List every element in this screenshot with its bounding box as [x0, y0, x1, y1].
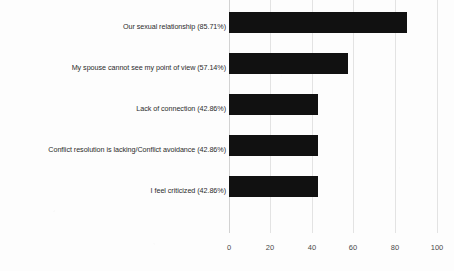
bar-chart: Our sexual relationship (85.71%) My spou…: [0, 0, 454, 271]
bar: [229, 12, 407, 33]
category-label: Conflict resolution is lacking/Conflict …: [0, 145, 226, 155]
category-label: Our sexual relationship (85.71%): [0, 22, 226, 32]
x-tick-label: 60: [349, 243, 357, 252]
category-label: Lack of connection (42.86%): [0, 104, 226, 114]
gridline-100: [437, 0, 438, 233]
x-tick-label: 80: [391, 243, 399, 252]
x-tick-label: 40: [308, 243, 316, 252]
gridline-80: [395, 0, 396, 233]
gridline-60: [353, 0, 354, 233]
x-axis-tick-labels: 0 20 40 60 80 100: [229, 243, 439, 257]
bar: [229, 135, 318, 156]
gridline-20: [270, 0, 271, 233]
category-label: My spouse cannot see my point of view (5…: [0, 63, 226, 73]
bar: [229, 53, 348, 74]
bar: [229, 176, 318, 197]
x-tick-label: 100: [431, 243, 444, 252]
x-tick-label: 20: [266, 243, 274, 252]
plot-area: [229, 0, 439, 233]
category-axis-labels: Our sexual relationship (85.71%) My spou…: [0, 0, 226, 233]
x-tick-label: 0: [227, 243, 231, 252]
category-label: I feel criticized (42.86%): [0, 186, 226, 196]
gridline-0: [229, 0, 230, 233]
gridline-40: [312, 0, 313, 233]
bar: [229, 94, 318, 115]
